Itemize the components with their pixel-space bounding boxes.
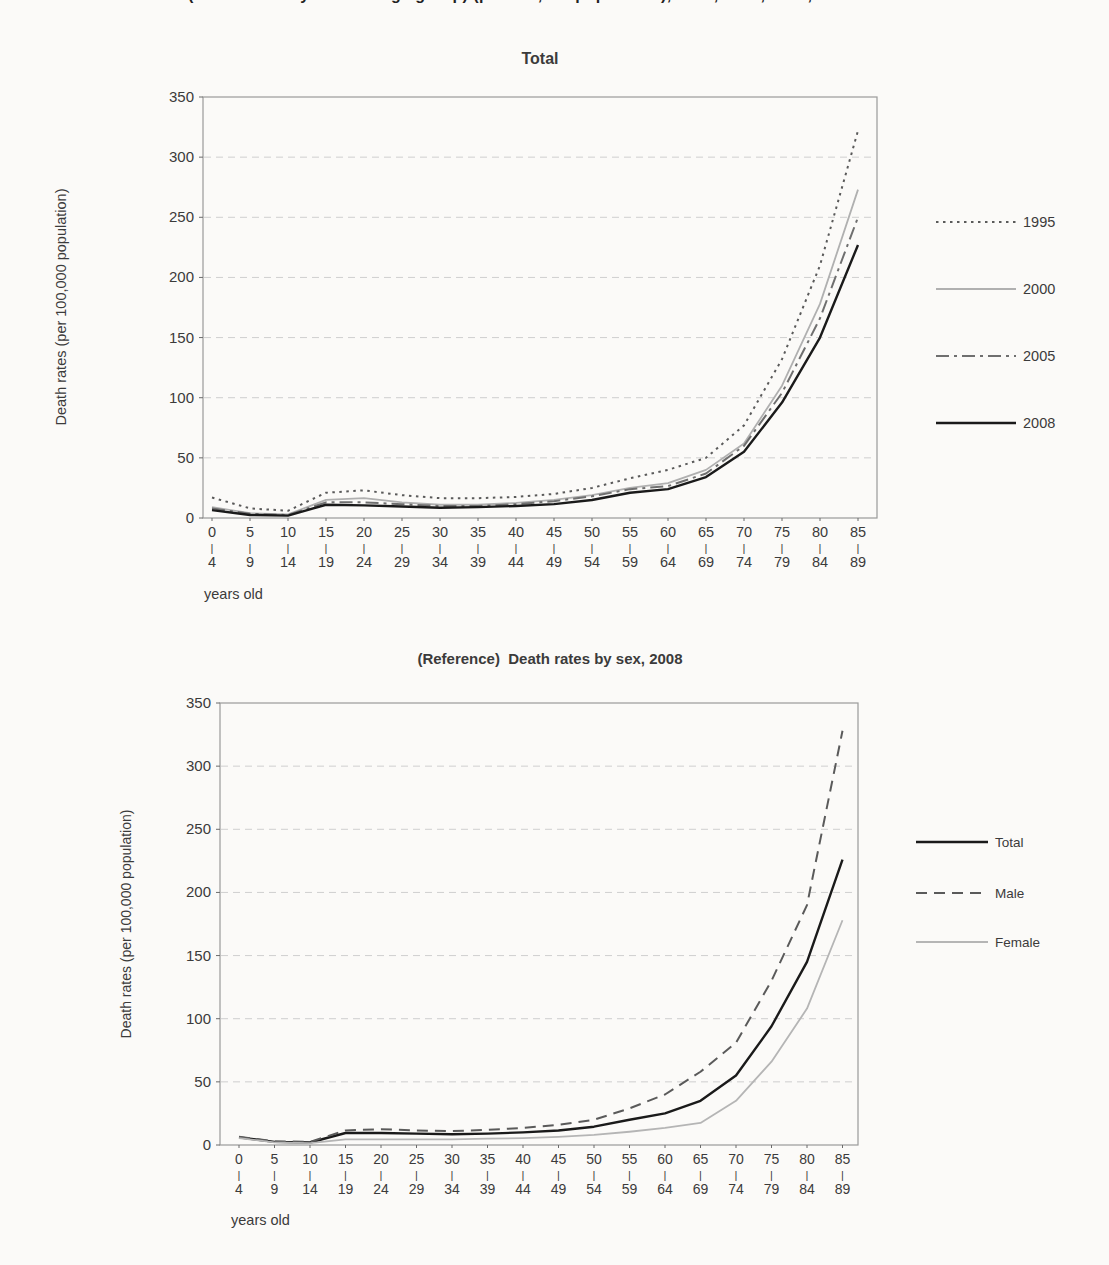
x-tick-label-end: 44	[515, 1181, 531, 1197]
x-tick-label-start: 45	[546, 524, 562, 540]
x-tick-label-start: 70	[728, 1151, 744, 1167]
x-tick-label-end: 49	[551, 1181, 567, 1197]
y-tick-label: 150	[169, 329, 194, 346]
x-tick-label-end: 59	[622, 1181, 638, 1197]
x-tick-separator: |	[439, 542, 442, 554]
series-line-2005	[212, 217, 858, 515]
x-tick-label-end: 59	[622, 554, 638, 570]
x-tick-label-start: 85	[835, 1151, 851, 1167]
x-tick-label-end: 79	[764, 1181, 780, 1197]
y-tick-label: 0	[186, 509, 194, 526]
legend-label-2000: 2000	[1023, 281, 1055, 297]
x-tick-label-end: 19	[338, 1181, 354, 1197]
y-tick-label: 50	[194, 1073, 211, 1090]
x-tick-label-start: 30	[444, 1151, 460, 1167]
x-tick-label-end: 29	[409, 1181, 425, 1197]
y-tick-label: 200	[169, 268, 194, 285]
x-tick-label-start: 65	[693, 1151, 709, 1167]
x-tick-label-end: 9	[271, 1181, 279, 1197]
x-tick-label-end: 54	[586, 1181, 602, 1197]
x-tick-label-end: 9	[246, 554, 254, 570]
series-line-1995	[212, 131, 858, 511]
x-tick-label-end: 24	[356, 554, 372, 570]
x-tick-separator: |	[628, 1169, 631, 1181]
x-tick-separator: |	[287, 542, 290, 554]
y-axis-title: Death rates (per 100,000 population)	[118, 810, 134, 1039]
x-tick-label-end: 89	[835, 1181, 851, 1197]
x-tick-label-start: 60	[660, 524, 676, 540]
x-tick-label-start: 15	[318, 524, 334, 540]
x-tick-label-end: 39	[480, 1181, 496, 1197]
x-tick-label-start: 75	[774, 524, 790, 540]
x-tick-separator: |	[857, 542, 860, 554]
page: (Death rates by sex and age group) (per …	[0, 0, 1109, 1265]
x-tick-label-start: 55	[622, 524, 638, 540]
x-tick-separator: |	[743, 542, 746, 554]
x-tick-label-end: 4	[235, 1181, 243, 1197]
x-tick-separator: |	[629, 542, 632, 554]
reference-by-sex-chart: (Reference) Death rates by sex, 20080501…	[118, 650, 1040, 1228]
x-tick-label-end: 89	[850, 554, 866, 570]
x-tick-label-start: 50	[586, 1151, 602, 1167]
x-tick-label-start: 20	[373, 1151, 389, 1167]
x-axis-caption: years old	[204, 586, 263, 602]
y-tick-label: 0	[203, 1136, 211, 1153]
x-tick-separator: |	[515, 542, 518, 554]
y-tick-label: 350	[169, 88, 194, 105]
legend-label-Female: Female	[995, 935, 1040, 950]
x-tick-label-start: 65	[698, 524, 714, 540]
x-tick-label-start: 40	[515, 1151, 531, 1167]
series-line-2000	[212, 190, 858, 515]
legend-label-2008: 2008	[1023, 415, 1055, 431]
x-tick-separator: |	[238, 1169, 241, 1181]
x-tick-separator: |	[363, 542, 366, 554]
x-tick-label-end: 69	[693, 1181, 709, 1197]
x-tick-label-start: 15	[338, 1151, 354, 1167]
x-tick-separator: |	[451, 1169, 454, 1181]
x-tick-separator: |	[211, 542, 214, 554]
x-tick-label-start: 40	[508, 524, 524, 540]
x-tick-separator: |	[819, 542, 822, 554]
x-tick-label-start: 45	[551, 1151, 567, 1167]
x-tick-separator: |	[309, 1169, 312, 1181]
x-tick-separator: |	[699, 1169, 702, 1181]
x-tick-label-start: 0	[235, 1151, 243, 1167]
legend-label-Male: Male	[995, 886, 1024, 901]
x-tick-separator: |	[705, 542, 708, 554]
x-tick-label-start: 10	[280, 524, 296, 540]
x-tick-label-start: 80	[812, 524, 828, 540]
x-tick-label-start: 75	[764, 1151, 780, 1167]
y-tick-label: 150	[186, 947, 211, 964]
x-tick-separator: |	[415, 1169, 418, 1181]
x-tick-label-end: 4	[208, 554, 216, 570]
plot-frame	[203, 97, 877, 518]
y-tick-label: 100	[186, 1010, 211, 1027]
x-tick-label-start: 55	[622, 1151, 638, 1167]
x-tick-label-start: 5	[271, 1151, 279, 1167]
x-tick-label-start: 70	[736, 524, 752, 540]
x-tick-label-end: 34	[432, 554, 448, 570]
x-tick-separator: |	[591, 542, 594, 554]
x-tick-separator: |	[401, 542, 404, 554]
x-tick-label-end: 44	[508, 554, 524, 570]
y-tick-label: 300	[169, 148, 194, 165]
x-tick-separator: |	[557, 1169, 560, 1181]
x-tick-label-start: 25	[409, 1151, 425, 1167]
legend-label-2005: 2005	[1023, 348, 1055, 364]
legend-label-1995: 1995	[1023, 214, 1055, 230]
x-tick-label-end: 49	[546, 554, 562, 570]
x-tick-separator: |	[273, 1169, 276, 1181]
x-tick-label-end: 39	[470, 554, 486, 570]
y-tick-label: 250	[169, 208, 194, 225]
x-tick-separator: |	[735, 1169, 738, 1181]
x-tick-label-start: 60	[657, 1151, 673, 1167]
x-tick-label-start: 35	[480, 1151, 496, 1167]
x-tick-separator: |	[781, 542, 784, 554]
x-tick-separator: |	[486, 1169, 489, 1181]
x-tick-label-end: 69	[698, 554, 714, 570]
x-tick-label-end: 84	[799, 1181, 815, 1197]
x-tick-label-end: 34	[444, 1181, 460, 1197]
y-tick-label: 50	[177, 449, 194, 466]
x-tick-separator: |	[553, 542, 556, 554]
x-tick-label-end: 14	[280, 554, 296, 570]
